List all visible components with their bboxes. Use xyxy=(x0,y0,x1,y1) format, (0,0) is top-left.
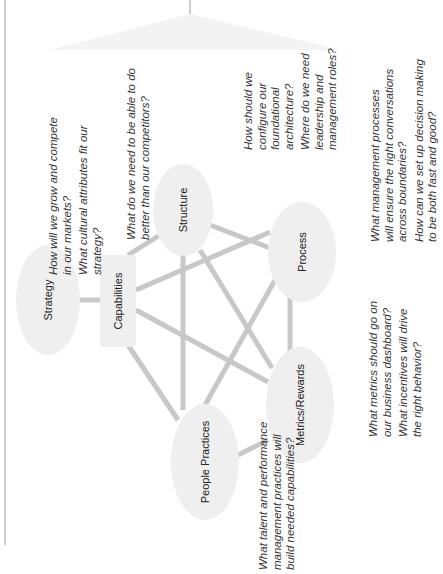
header-triangle xyxy=(50,14,340,50)
node-process: Process xyxy=(268,202,336,302)
questions-capabilities: What do we need to be able to do better … xyxy=(98,68,169,240)
node-label: People Practices xyxy=(199,420,211,503)
question-text: Where do we need leadership and manageme… xyxy=(299,48,340,150)
question-text: What metrics should go on our business d… xyxy=(367,301,394,437)
edge-process-people xyxy=(205,280,275,405)
edge-capabilities-metrics xyxy=(136,310,268,382)
node-label: Capabilities xyxy=(112,272,124,329)
question-text: What management processes will ensure th… xyxy=(369,59,410,242)
questions-people-practices: What talent and performance management p… xyxy=(230,422,314,570)
question-text: How can we set up decision making to be … xyxy=(413,59,440,242)
edge-capabilities-people xyxy=(128,345,178,420)
questions-metrics-rewards: What metrics should go on our business d… xyxy=(340,301,441,437)
questions-process: What management processes will ensure th… xyxy=(342,59,443,242)
question-text: What incentives will drive the right beh… xyxy=(397,301,424,437)
question-text: What talent and performance management p… xyxy=(257,422,298,570)
node-label: Structure xyxy=(177,188,189,233)
questions-structure: How should we configure our foundational… xyxy=(215,48,356,150)
question-text: What do we need to be able to do better … xyxy=(125,68,152,240)
question-text: How will we grow and compete in our mark… xyxy=(47,117,74,275)
node-label: Strategy xyxy=(42,279,54,320)
question-text: How should we configure our foundational… xyxy=(242,48,296,150)
node-label: Process xyxy=(296,232,308,272)
node-people-practices: People Practices xyxy=(171,404,239,520)
